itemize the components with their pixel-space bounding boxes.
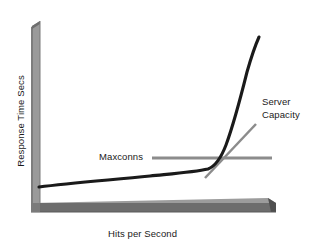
x-axis-3d-block — [31, 198, 276, 212]
y-axis-title: Response Time Secs — [15, 51, 27, 191]
server-capacity-label-line2: Capacity — [262, 109, 300, 122]
y-axis-face — [32, 21, 40, 209]
chart-plot-area — [0, 0, 313, 248]
server-capacity-label-line1: Server — [262, 96, 300, 109]
axis-corner-joint — [31, 203, 40, 212]
x-axis-face — [31, 203, 276, 212]
x-axis-title: Hits per Second — [108, 228, 177, 240]
y-axis-3d-block — [31, 21, 40, 209]
maxconns-annotation-label: Maxconns — [99, 151, 143, 163]
chart-figure: Response Time Secs Hits per Second Maxco… — [0, 0, 313, 248]
server-capacity-annotation-label: Server Capacity — [262, 96, 300, 121]
response-time-curve — [39, 37, 259, 187]
y-axis-left-edge — [31, 26, 33, 209]
